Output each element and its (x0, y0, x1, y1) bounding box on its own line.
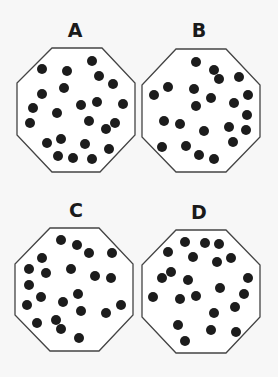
dot (226, 253, 236, 263)
dot (37, 89, 47, 99)
dot (28, 103, 38, 113)
dot (188, 252, 198, 262)
dot (212, 257, 222, 267)
dot (209, 308, 219, 318)
dot (53, 151, 63, 161)
dot (116, 300, 126, 310)
dot (231, 327, 241, 337)
dot (241, 125, 251, 135)
dot (175, 294, 185, 304)
dot (206, 325, 216, 335)
dot (66, 264, 76, 274)
dot (41, 268, 51, 278)
dot (215, 283, 225, 293)
dot (92, 97, 102, 107)
panel-a: A (17, 19, 135, 172)
dot (24, 280, 34, 290)
figure-canvas: A B C D (0, 0, 278, 377)
dot (56, 235, 66, 245)
panel-label: C (69, 199, 83, 221)
dot (157, 142, 167, 152)
dot (159, 116, 169, 126)
panel-label: B (192, 19, 206, 41)
dot (194, 150, 204, 160)
dot (243, 90, 253, 100)
dot (183, 275, 193, 285)
panel-d: D (142, 201, 260, 353)
dot (199, 126, 209, 136)
dot (84, 248, 94, 258)
dot (191, 57, 201, 67)
dot (24, 264, 34, 274)
dot (32, 318, 42, 328)
dot (110, 118, 120, 128)
dot (243, 273, 253, 283)
dot (72, 240, 82, 250)
dot (74, 333, 84, 343)
dot (25, 118, 35, 128)
dot (166, 267, 176, 277)
dot (200, 238, 210, 248)
dot (84, 116, 94, 126)
panel-b: B (142, 19, 260, 172)
dot (106, 273, 116, 283)
dot (73, 289, 83, 299)
dot (76, 100, 86, 110)
dot (229, 98, 239, 108)
dot (101, 124, 111, 134)
dot (118, 99, 128, 109)
dot (206, 93, 216, 103)
dot (56, 324, 66, 334)
dot (163, 247, 173, 257)
dot (87, 154, 97, 164)
dot (104, 144, 114, 154)
dot (173, 320, 183, 330)
dot (22, 300, 32, 310)
dot (42, 138, 52, 148)
dot (228, 137, 238, 147)
dot (230, 302, 240, 312)
dot (175, 119, 185, 129)
dot (157, 273, 167, 283)
dot (149, 90, 159, 100)
dot (107, 248, 117, 258)
dot (90, 271, 100, 281)
dot (180, 336, 190, 346)
panel-c: C (15, 199, 133, 351)
dot (214, 74, 224, 84)
dot (37, 253, 47, 263)
dot (59, 83, 69, 93)
dot (108, 79, 118, 89)
dot (51, 315, 61, 325)
dot (209, 65, 219, 75)
dot (180, 237, 190, 247)
dot (80, 139, 90, 149)
dot (214, 239, 224, 249)
dot (148, 292, 158, 302)
dot (234, 72, 244, 82)
dot (94, 71, 104, 81)
dot (52, 108, 62, 118)
dot (224, 122, 234, 132)
dot (181, 141, 191, 151)
dot (242, 110, 252, 120)
panel-label: D (191, 201, 207, 223)
dot (58, 297, 68, 307)
dot (239, 289, 249, 299)
panel-label: A (68, 19, 83, 41)
dot (87, 56, 97, 66)
dot (36, 292, 46, 302)
dot-octagon-figure: A B C D (0, 0, 278, 377)
dot (209, 154, 219, 164)
dot (189, 84, 199, 94)
dot (37, 64, 47, 74)
dot (62, 66, 72, 76)
dot (76, 306, 86, 316)
dot (191, 291, 201, 301)
dot (163, 82, 173, 92)
dot (101, 308, 111, 318)
dot (191, 101, 201, 111)
dot (68, 153, 78, 163)
dot (56, 134, 66, 144)
